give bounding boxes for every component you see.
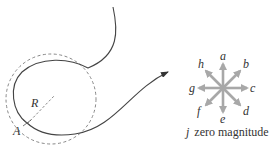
direction-compass <box>199 64 247 112</box>
zero-text: zero magnitude <box>194 125 268 139</box>
zero-label: j <box>184 125 190 139</box>
radius-label: R <box>30 96 39 110</box>
arrow-f <box>206 88 223 105</box>
direction-label-d: d <box>243 104 250 118</box>
point-a-marker <box>23 120 31 126</box>
direction-label-e: e <box>220 112 226 126</box>
direction-label-a: a <box>220 49 226 63</box>
direction-label-f: f <box>197 104 202 118</box>
point-label: A <box>12 124 21 138</box>
direction-label-b: b <box>243 57 249 71</box>
direction-label-c: c <box>250 81 256 95</box>
arrow-h <box>206 71 223 88</box>
direction-label-h: h <box>198 57 204 71</box>
direction-label-g: g <box>189 81 195 95</box>
arrow-d <box>223 88 240 105</box>
arrow-b <box>223 71 240 88</box>
zero-magnitude-caption: j zero magnitude <box>184 125 269 139</box>
trajectory-curve <box>13 7 168 135</box>
path-diagram: R A a b c d e f g h j zero magnitude <box>0 0 273 151</box>
